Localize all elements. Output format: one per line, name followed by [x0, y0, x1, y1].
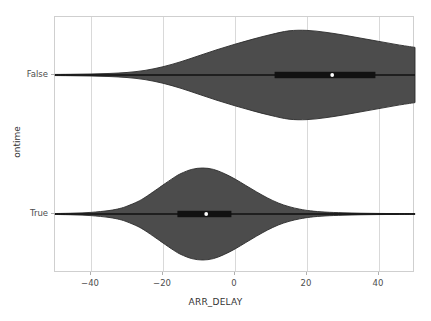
violin-canvas	[55, 17, 415, 273]
violin-plot-figure: −40−2002040 FalseTrue ARR_DELAY ontime	[0, 0, 431, 321]
x-tick-mark-2	[234, 272, 235, 275]
x-tick-label-0: −40	[81, 278, 99, 288]
x-tick-mark-4	[378, 272, 379, 275]
y-tick-mark-1	[51, 213, 54, 214]
x-tick-mark-1	[162, 272, 163, 275]
x-tick-label-3: 20	[301, 278, 312, 288]
y-tick-label-false: False	[27, 69, 48, 79]
x-tick-mark-3	[306, 272, 307, 275]
y-tick-mark-0	[51, 74, 54, 75]
boxplot-median-marker	[330, 73, 334, 77]
x-tick-label-1: −20	[153, 278, 171, 288]
y-axis-label: ontime	[12, 112, 22, 172]
x-axis-label: ARR_DELAY	[0, 297, 431, 307]
plot-area	[54, 16, 414, 272]
boxplot-median-marker	[204, 212, 208, 216]
violin-true	[55, 168, 415, 260]
x-tick-label-2: 0	[231, 278, 236, 288]
y-tick-label-true: True	[30, 208, 48, 218]
x-tick-label-4: 40	[373, 278, 384, 288]
x-tick-mark-0	[90, 272, 91, 275]
violin-false	[55, 30, 415, 120]
boxplot-iqr-box	[275, 72, 376, 78]
